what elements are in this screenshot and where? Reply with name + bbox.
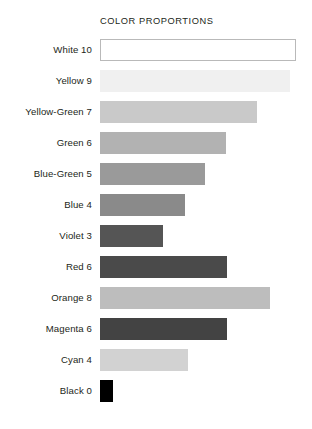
bar-row: Orange 8 [0, 287, 312, 309]
bar [100, 39, 296, 61]
bar-track [100, 101, 312, 123]
bar-row-label: Blue 4 [0, 194, 92, 216]
chart-title: COLOR PROPORTIONS [100, 16, 214, 26]
bar [100, 318, 227, 340]
bar-row-label: Black 0 [0, 380, 92, 402]
bar-row-label: Green 6 [0, 132, 92, 154]
bar-row-label: Cyan 4 [0, 349, 92, 371]
bar-row: Yellow-Green 7 [0, 101, 312, 123]
bar-track [100, 132, 312, 154]
bar [100, 287, 270, 309]
bar [100, 70, 290, 92]
bar [100, 163, 205, 185]
bar-row-label: Magenta 6 [0, 318, 92, 340]
bar [100, 256, 227, 278]
bar-track [100, 349, 312, 371]
bar-row: Blue 4 [0, 194, 312, 216]
bar-row-label: Orange 8 [0, 287, 92, 309]
bar-track [100, 39, 312, 61]
bar-row: Magenta 6 [0, 318, 312, 340]
color-proportions-chart: COLOR PROPORTIONS White 10Yellow 9Yellow… [0, 0, 312, 429]
bar [100, 194, 185, 216]
bar-row-label: Blue-Green 5 [0, 163, 92, 185]
bar [100, 225, 163, 247]
bar-row: White 10 [0, 39, 312, 61]
bar-row-label: Yellow-Green 7 [0, 101, 92, 123]
bar-row: Yellow 9 [0, 70, 312, 92]
bar [100, 380, 113, 402]
bar-row: Violet 3 [0, 225, 312, 247]
bar-track [100, 318, 312, 340]
bar [100, 132, 226, 154]
bar-row-label: White 10 [0, 39, 92, 61]
bar [100, 101, 257, 123]
bar-row: Green 6 [0, 132, 312, 154]
bar-rows-container: White 10Yellow 9Yellow-Green 7Green 6Blu… [0, 39, 312, 411]
bar-row: Black 0 [0, 380, 312, 402]
bar-track [100, 70, 312, 92]
bar-row-label: Yellow 9 [0, 70, 92, 92]
bar-row: Blue-Green 5 [0, 163, 312, 185]
bar-row: Cyan 4 [0, 349, 312, 371]
bar-track [100, 287, 312, 309]
bar-row-label: Red 6 [0, 256, 92, 278]
bar-track [100, 380, 312, 402]
bar-track [100, 225, 312, 247]
bar [100, 349, 188, 371]
bar-track [100, 256, 312, 278]
bar-row-label: Violet 3 [0, 225, 92, 247]
bar-track [100, 194, 312, 216]
bar-track [100, 163, 312, 185]
bar-row: Red 6 [0, 256, 312, 278]
